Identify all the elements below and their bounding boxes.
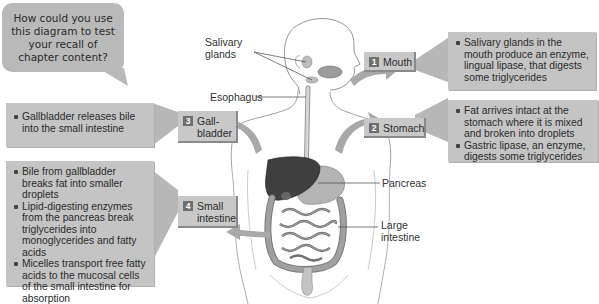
info-box-stomach: Fat arrives intact at the stomach where …: [448, 100, 598, 162]
bullet: Gastric lipase, an enzyme, digests some …: [455, 140, 592, 163]
label-esophagus: Esophagus: [210, 91, 263, 103]
info-box-small-intestine: Bile from gallbladder breaks fat into sm…: [6, 161, 154, 286]
step-label: Gall-bladder: [197, 115, 231, 139]
step-number: 2: [369, 123, 379, 133]
step-label: Small intestine: [197, 200, 235, 224]
mouth-connector: [415, 38, 448, 82]
bullet: Bile from gallbladder breaks fat into sm…: [13, 166, 148, 201]
label-large-intestine: Large intestine: [381, 219, 431, 243]
bullet: Micelles transport free fatty acids to t…: [13, 258, 148, 304]
step-label: Mouth: [383, 56, 412, 68]
step-mouth: 1 Mouth: [364, 52, 416, 72]
step-number: 4: [183, 201, 193, 211]
info-box-mouth: Salivary glands in the mouth produce an …: [448, 32, 596, 90]
step-gallbladder: 3 Gall-bladder: [178, 111, 238, 143]
info-box-gallbladder: Gallbladder releases bile into the small…: [6, 103, 154, 147]
label-pancreas: Pancreas: [382, 177, 426, 189]
small-intestine-connector: [152, 170, 178, 262]
step-number: 1: [369, 57, 379, 67]
step-stomach: 2 Stomach: [364, 118, 426, 138]
step-small-intestine: 4 Small intestine: [178, 196, 238, 228]
bullet: Fat arrives intact at the stomach where …: [455, 105, 592, 140]
step-number: 3: [183, 116, 193, 126]
bullet: Salivary glands in the mouth produce an …: [455, 37, 590, 83]
bullet: Gallbladder releases bile into the small…: [13, 111, 148, 134]
gallbladder-connector: [152, 103, 178, 146]
bullet: Lipid-digesting enzymes from the pancrea…: [13, 201, 148, 259]
label-salivary-glands: Salivary glands: [205, 36, 255, 60]
step-label: Stomach: [383, 122, 424, 134]
